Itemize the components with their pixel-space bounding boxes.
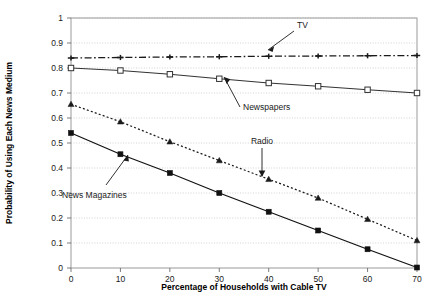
y-axis-title: Probability of Using Each News Medium	[4, 62, 14, 224]
y-axis-tick-label: 0.7	[51, 88, 63, 98]
y-axis-tick-label: 0.9	[51, 38, 63, 48]
x-axis-tick-label: 10	[116, 274, 126, 284]
annotation-newspapers-label: Newspapers	[243, 102, 290, 112]
data-point-marker	[217, 76, 222, 81]
y-axis-tick-label: 0.6	[51, 113, 63, 123]
x-axis-tick-label: 60	[363, 274, 373, 284]
data-point-marker	[315, 84, 320, 89]
y-axis-tick-label: 0.8	[51, 63, 63, 73]
y-axis-tick-label: 0.1	[51, 238, 63, 248]
data-point-marker	[167, 171, 172, 176]
chart-container: 00.10.20.30.40.50.60.70.80.91 0102030405…	[0, 0, 445, 304]
data-point-marker	[266, 209, 271, 214]
data-point-marker	[415, 265, 420, 270]
y-axis-tick-label: 0.4	[51, 163, 63, 173]
data-point-marker	[118, 152, 123, 157]
data-point-marker	[316, 228, 321, 233]
line-chart: 00.10.20.30.40.50.60.70.80.91 0102030405…	[0, 0, 445, 304]
annotation-tv-label: TV	[297, 20, 308, 30]
annotation-radio-label: Radio	[251, 136, 273, 146]
data-point-marker	[365, 247, 370, 252]
data-point-marker	[266, 80, 271, 85]
x-axis-tick-label: 0	[69, 274, 74, 284]
data-point-marker	[414, 90, 419, 95]
y-axis-tick-label: 1	[58, 13, 63, 23]
data-point-marker	[68, 65, 73, 70]
annotation-news-magazines-label: News Magazines	[62, 190, 127, 200]
data-point-marker	[217, 191, 222, 196]
y-axis-tick-label: 0	[58, 263, 63, 273]
y-axis-tick-label: 0.2	[51, 213, 63, 223]
x-axis-tick-label: 70	[412, 274, 422, 284]
chart-background	[0, 0, 445, 304]
y-axis-tick-label: 0.5	[51, 138, 63, 148]
x-axis-title: Percentage of Households with Cable TV	[161, 282, 327, 292]
data-point-marker	[118, 68, 123, 73]
data-point-marker	[69, 131, 74, 136]
data-point-marker	[365, 87, 370, 92]
data-point-marker	[167, 72, 172, 77]
